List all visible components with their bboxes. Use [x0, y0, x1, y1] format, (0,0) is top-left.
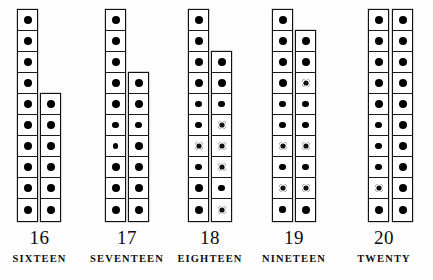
bead-dot: [195, 101, 201, 107]
bead-column: [40, 93, 61, 222]
bead-cell: [296, 157, 315, 178]
bead-cell: [18, 199, 37, 220]
bead-dot: [279, 122, 285, 128]
bead-cell: [273, 31, 292, 52]
bead-cell: [296, 52, 315, 73]
bead-dot: [375, 122, 381, 128]
bead-cell: [296, 73, 315, 94]
bead-cell: [273, 157, 292, 178]
bead-dot: [24, 121, 32, 129]
number-group: 19NINETEEN: [256, 0, 332, 280]
bead-dot: [24, 206, 32, 214]
bead-cell: [369, 52, 388, 73]
bead-dot: [375, 206, 383, 214]
group-word-label: TWENTY: [346, 253, 422, 265]
group-word-label: NINETEEN: [256, 253, 332, 265]
bead-dot: [135, 122, 141, 128]
bead-cell: [296, 94, 315, 115]
bead-cell: [393, 136, 412, 157]
bead-dot: [112, 37, 120, 45]
bead-dot: [399, 142, 407, 150]
bead-cell: [106, 178, 125, 199]
bead-cell: [129, 178, 148, 199]
bead-dot: [302, 37, 310, 45]
bead-dot: [375, 37, 383, 45]
group-word-label: EIGHTEEN: [172, 253, 248, 265]
bead-cell: [369, 73, 388, 94]
bead-cell: [18, 52, 37, 73]
bead-cell: [212, 157, 231, 178]
group-numeral: 20: [346, 228, 422, 248]
bead-cell: [393, 10, 412, 31]
bead-dot: [279, 206, 285, 212]
bead-column: [17, 9, 38, 222]
bead-cell: [189, 31, 208, 52]
bead-dot: [279, 142, 287, 150]
bead-cell: [393, 31, 412, 52]
bead-cell: [273, 136, 292, 157]
bead-columns-area: [2, 0, 77, 224]
bead-dot: [399, 206, 407, 214]
bead-dot: [24, 79, 32, 87]
bead-dot: [24, 142, 32, 150]
bead-cell: [369, 94, 388, 115]
bead-cell: [273, 10, 292, 31]
bead-dot: [135, 100, 143, 108]
bead-dot: [112, 184, 120, 192]
bead-columns-area: [256, 0, 332, 224]
bead-dot: [135, 206, 143, 214]
bead-column: [128, 72, 149, 222]
bead-cell: [129, 115, 148, 136]
bead-cell: [41, 136, 60, 157]
bead-cell: [189, 52, 208, 73]
bead-cell: [129, 199, 148, 220]
bead-dot: [302, 101, 308, 107]
bead-cell: [273, 199, 292, 220]
bead-cell: [212, 199, 231, 220]
bead-cell: [129, 73, 148, 94]
bead-cell: [273, 94, 292, 115]
bead-dot: [375, 58, 383, 66]
bead-dot: [302, 122, 308, 128]
bead-dot: [195, 16, 203, 24]
bead-dot: [302, 142, 310, 150]
number-group: 17SEVENTEEN: [88, 0, 166, 280]
bead-cell: [296, 199, 315, 220]
bead-columns-area: [346, 0, 422, 224]
bead-cell: [296, 115, 315, 136]
bead-dot: [399, 16, 407, 24]
bead-dot: [113, 143, 118, 148]
bead-cell: [129, 136, 148, 157]
bead-cell: [369, 115, 388, 136]
bead-dot: [302, 164, 308, 170]
bead-cell: [369, 178, 388, 199]
bead-dot: [195, 37, 203, 45]
bead-dot: [47, 100, 55, 108]
bead-cell: [189, 199, 208, 220]
bead-dot: [279, 101, 285, 107]
bead-dot: [195, 122, 201, 128]
bead-cell: [18, 136, 37, 157]
bead-dot: [47, 184, 55, 192]
bead-cell: [393, 73, 412, 94]
bead-dot: [218, 163, 226, 171]
bead-column: [188, 9, 209, 222]
bead-cell: [18, 178, 37, 199]
bead-cell: [106, 31, 125, 52]
bead-dot: [302, 79, 310, 87]
bead-cell: [189, 157, 208, 178]
bead-dot: [135, 79, 143, 87]
bead-dot: [112, 100, 120, 108]
bead-cell: [273, 115, 292, 136]
number-group: 18EIGHTEEN: [172, 0, 248, 280]
counting-chart-sheet: 16SIXTEEN17SEVENTEEN18EIGHTEEN19NINETEEN…: [0, 0, 433, 280]
number-group: 20TWENTY: [346, 0, 422, 280]
bead-dot: [399, 121, 407, 129]
bead-dot: [112, 206, 120, 214]
bead-dot: [47, 206, 55, 214]
bead-cell: [129, 157, 148, 178]
bead-dot: [279, 184, 287, 192]
bead-cell: [212, 73, 231, 94]
bead-cell: [393, 52, 412, 73]
bead-cell: [106, 136, 125, 157]
